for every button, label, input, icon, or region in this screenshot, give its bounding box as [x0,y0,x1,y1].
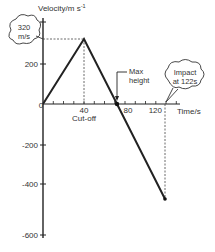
svg-text:height: height [129,76,150,85]
max-height-callout: Max height [115,67,150,101]
svg-text:320: 320 [18,23,31,32]
y-axis-label: Velocity/m s-1 [38,3,86,13]
y-tick-200: 200 [25,60,39,69]
max-height-point [115,102,119,106]
x-tick-80: 80 [124,106,133,115]
y-tick-minus-200: -200 [22,141,39,150]
y-tick-minus-400: -400 [22,180,39,189]
impact-callout: Impact at 122s [165,60,204,103]
x-tick-120: 120 [149,106,163,115]
svg-text:m/s: m/s [18,32,30,41]
svg-text:at 122s: at 122s [173,77,198,86]
svg-text:Max: Max [129,67,143,76]
x-axis-label: Time/s [177,107,201,116]
cutoff-label: Cut-off [72,114,97,123]
impact-point [163,197,167,201]
velocity-time-chart: Velocity/m s-1 400 200 -200 -400 -600 0 … [0,0,215,252]
y-tick-minus-600: -600 [22,231,39,240]
velocity-line [43,39,165,199]
svg-text:Impact: Impact [174,68,197,77]
